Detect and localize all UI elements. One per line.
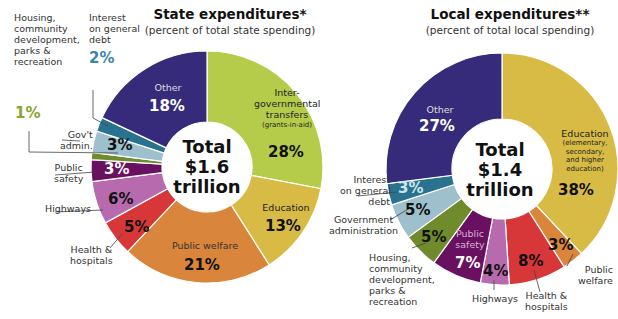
state-label-safety: Publicsafety xyxy=(54,162,83,184)
state-label-health: Health &hospitals xyxy=(70,244,113,266)
state-pct-edu: 13% xyxy=(265,217,301,235)
local-label-highways: Highways xyxy=(472,293,518,304)
local-pct-health: 8% xyxy=(518,252,543,270)
local-pct-interest: 3% xyxy=(398,179,423,197)
state-pct-welfare: 21% xyxy=(184,256,220,274)
state-label-igt: Inter-governmentaltransfers (grants-in-a… xyxy=(254,87,320,131)
state-pct-highways: 6% xyxy=(108,190,133,208)
local-total: Total$1.4trillion xyxy=(460,140,540,200)
state-pct-igt: 28% xyxy=(268,143,304,161)
state-label-welfare: Public welfare xyxy=(165,240,245,251)
state-pct-safety: 3% xyxy=(104,160,129,178)
local-label-health: Health &hospitals xyxy=(525,290,568,312)
state-label-highways: Highways xyxy=(45,203,91,214)
local-pct-welfare: 3% xyxy=(548,236,573,254)
local-label-edu: Education (elementary,secondary,and high… xyxy=(550,128,618,173)
local-pct-admin: 5% xyxy=(405,201,430,219)
local-pct-safety: 7% xyxy=(455,254,480,272)
state-label-edu: Education xyxy=(256,202,316,213)
state-label-housing: Housing,communitydevelopment,parks &recr… xyxy=(14,12,80,67)
state-total: Total$1.6trillion xyxy=(167,137,247,197)
state-label-interest: Intereston generaldebt xyxy=(89,12,140,45)
local-label-other: Other xyxy=(420,104,460,115)
local-label-admin: Governmentadministration xyxy=(329,214,398,236)
state-pct-other: 18% xyxy=(149,97,185,115)
local-label-interest: Intereston generaldebt xyxy=(340,174,390,207)
state-pct-interest: 2% xyxy=(89,49,114,67)
local-label-housing: Housing,communitydevelopment,parks &recr… xyxy=(369,252,435,307)
state-pct-admin: 3% xyxy=(107,136,132,154)
state-pct-housing: 1% xyxy=(15,104,40,122)
state-label-admin: Gov'tadmin. xyxy=(60,129,93,151)
local-pct-other: 27% xyxy=(419,117,455,135)
state-label-other: Other xyxy=(143,82,193,93)
local-pct-highways: 4% xyxy=(483,262,508,280)
local-label-safety: Publicsafety xyxy=(455,228,485,250)
state-pct-health: 5% xyxy=(124,218,149,236)
local-pct-edu: 38% xyxy=(558,181,594,199)
local-label-welfare: Publicwelfare xyxy=(578,264,613,286)
local-pct-housing: 5% xyxy=(421,228,446,246)
